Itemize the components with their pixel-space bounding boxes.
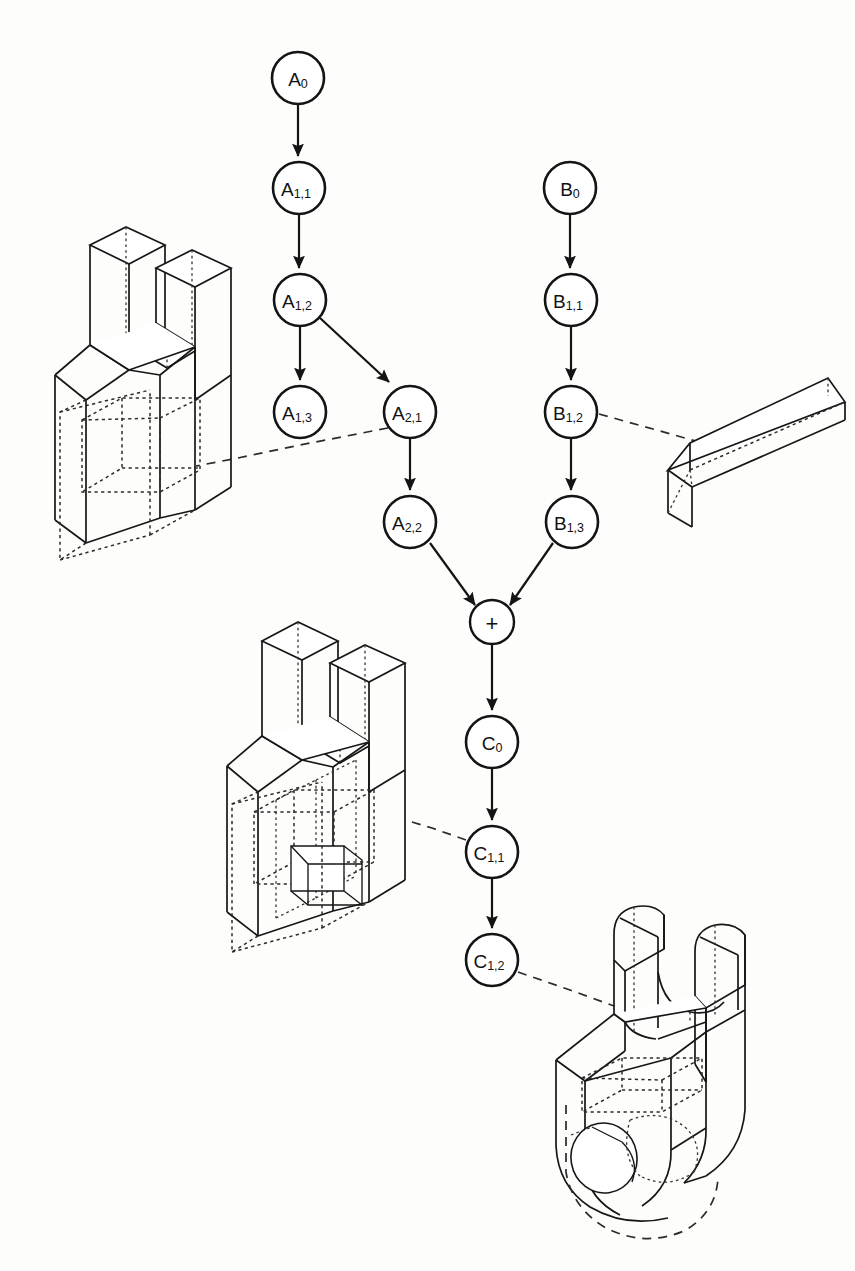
node-A1-3[interactable]: A1,3 [274,386,326,438]
node-B1-2[interactable]: B1,2 [545,386,597,438]
node-union-operator[interactable]: + [470,600,514,644]
node-B0[interactable]: B0 [544,162,596,214]
node-C0[interactable]: C0 [466,716,518,768]
node-A1-2[interactable]: A1,2 [274,274,326,326]
node-C1-2[interactable]: C1,2 [466,934,518,986]
node-A0[interactable]: A0 [272,52,324,104]
node-B1-1[interactable]: B1,1 [545,274,597,326]
node-A2-1[interactable]: A2,1 [384,386,436,438]
node-B1-3[interactable]: B1,3 [546,496,598,548]
construction-tree-diagram: A0 A1,1 A1,2 A1,3 A2,1 A2,2 B0 B1,1 B1,2… [0,0,855,1271]
operator-label: + [486,611,499,636]
node-A1-1[interactable]: A1,1 [273,162,325,214]
node-C1-1[interactable]: C1,1 [466,826,518,878]
figure-canvas: A0 A1,1 A1,2 A1,3 A2,1 A2,2 B0 B1,1 B1,2… [0,0,855,1271]
page-background [0,0,855,1271]
node-A2-2[interactable]: A2,2 [384,496,436,548]
